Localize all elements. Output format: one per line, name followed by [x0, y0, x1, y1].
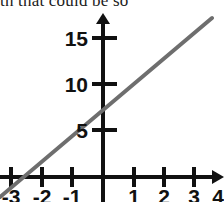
x-tick-label--3: -3: [2, 185, 21, 202]
plotted-line: [0, 18, 212, 197]
x-tick-label--1: -1: [63, 185, 82, 202]
y-axis-arrowhead: [96, 13, 110, 24]
graph-svg: 15 10 5 -3 -2 -1 1 2 3 4: [0, 12, 224, 202]
x-tick-label-4: 4: [212, 185, 224, 202]
y-tick-label-5: 5: [76, 119, 88, 142]
coordinate-plane: 15 10 5 -3 -2 -1 1 2 3 4: [0, 12, 224, 202]
y-tick-label-10: 10: [65, 73, 88, 96]
x-tick-label-2: 2: [158, 185, 170, 202]
graph-screenshot: th that could be so: [0, 0, 224, 202]
x-tick-label-1: 1: [128, 185, 140, 202]
x-tick-label--2: -2: [33, 185, 52, 202]
x-tick-label-3: 3: [188, 185, 200, 202]
x-axis: [0, 170, 224, 184]
x-axis-arrowhead: [212, 170, 224, 184]
y-tick-label-15: 15: [65, 27, 89, 50]
